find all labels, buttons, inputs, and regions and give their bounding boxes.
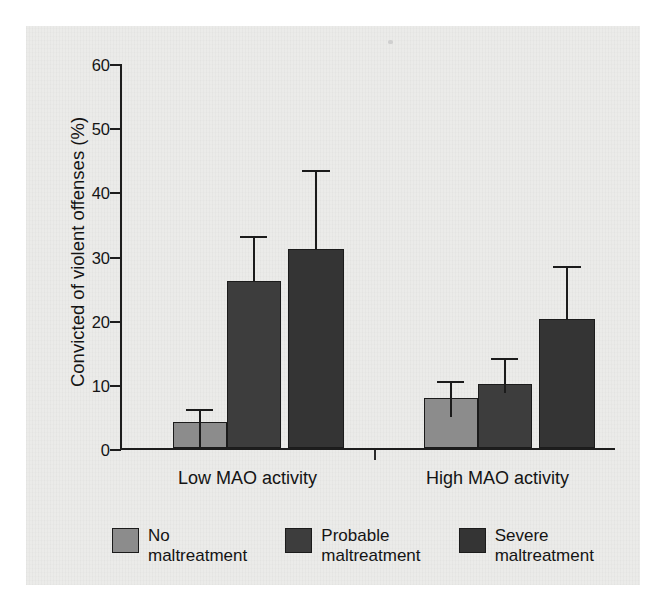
errorbar-stem-high-mao-no	[450, 381, 452, 417]
bar-low-mao-severe-maltreatment	[288, 249, 344, 448]
bar-high-mao-probable-maltreatment	[478, 384, 532, 448]
errorbar-cap-high-mao-probable	[491, 358, 518, 360]
errorbar-stem-low-mao-no	[199, 409, 201, 448]
legend-item-no-maltreatment: No maltreatment	[112, 526, 285, 566]
bar-low-mao-probable-maltreatment	[227, 281, 281, 448]
x-category-label-high-mao: High MAO activity	[426, 468, 569, 489]
legend-swatch-severe-maltreatment	[459, 528, 486, 553]
bar-high-mao-severe-maltreatment	[539, 319, 595, 448]
y-tick-20	[110, 321, 121, 323]
y-tick-60	[110, 64, 121, 66]
figure-panel: 60 50 40 30 20 10 0 Convicted of violent…	[26, 26, 640, 585]
legend-swatch-no-maltreatment	[112, 528, 139, 553]
errorbar-cap-low-mao-probable	[240, 236, 267, 238]
legend-label-line2-no: maltreatment	[148, 546, 247, 566]
y-axis-title: Convicted of violent offenses (%)	[67, 52, 89, 452]
errorbar-stem-low-mao-severe	[315, 170, 317, 249]
errorbar-cap-high-mao-no	[437, 381, 464, 383]
legend-label-line1-no: No	[148, 526, 247, 546]
y-tick-30	[110, 257, 121, 259]
legend-label-line2-severe: maltreatment	[495, 546, 594, 566]
legend-label-line2-probable: maltreatment	[321, 546, 420, 566]
x-category-label-low-mao: Low MAO activity	[178, 468, 317, 489]
plot-area: 60 50 40 30 20 10 0 Convicted of violent…	[26, 26, 640, 585]
y-tick-40	[110, 192, 121, 194]
legend-label-line1-severe: Severe	[495, 526, 594, 546]
y-tick-50	[110, 128, 121, 130]
x-axis-line	[120, 448, 615, 450]
y-tick-10	[110, 385, 121, 387]
legend-label-severe-maltreatment: Severe maltreatment	[495, 526, 594, 566]
errorbar-stem-low-mao-probable	[253, 236, 255, 281]
legend-label-line1-probable: Probable	[321, 526, 420, 546]
errorbar-cap-low-mao-severe	[302, 170, 330, 172]
group-separator-tick	[374, 450, 376, 460]
legend-label-probable-maltreatment: Probable maltreatment	[321, 526, 420, 566]
y-tick-0	[110, 449, 121, 451]
legend-item-severe-maltreatment: Severe maltreatment	[459, 526, 632, 566]
legend-swatch-probable-maltreatment	[285, 528, 312, 553]
legend: No maltreatment Probable maltreatment Se…	[112, 526, 632, 566]
errorbar-cap-low-mao-no	[186, 409, 213, 411]
errorbar-stem-high-mao-probable	[504, 358, 506, 393]
legend-item-probable-maltreatment: Probable maltreatment	[285, 526, 458, 566]
errorbar-stem-high-mao-severe	[566, 266, 568, 320]
errorbar-cap-high-mao-severe	[553, 266, 581, 268]
legend-label-no-maltreatment: No maltreatment	[148, 526, 247, 566]
